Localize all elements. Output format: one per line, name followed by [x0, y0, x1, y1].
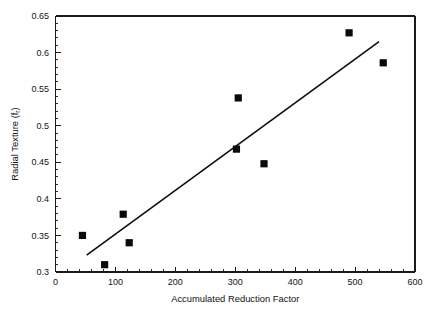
data-point-marker — [380, 59, 387, 66]
data-point-marker — [79, 232, 86, 239]
y-tick-label: 0.4 — [36, 194, 49, 204]
data-point-marker — [345, 29, 352, 36]
data-point-marker — [233, 146, 240, 153]
x-tick-label: 0 — [53, 277, 58, 287]
y-tick-label: 0.6 — [36, 48, 49, 58]
y-tick-label: 0.35 — [31, 231, 49, 241]
data-point-marker — [126, 239, 133, 246]
x-tick-label: 500 — [348, 277, 363, 287]
data-point-marker — [235, 94, 242, 101]
x-tick-label: 300 — [228, 277, 243, 287]
x-tick-label: 600 — [407, 277, 422, 287]
data-points — [79, 29, 387, 268]
x-tick-label: 200 — [168, 277, 183, 287]
y-tick-label: 0.45 — [31, 157, 49, 167]
x-axis-title: Accumulated Reduction Factor — [171, 293, 299, 304]
y-axis-title: Radial Texture (fr) — [9, 107, 21, 180]
data-point-marker — [101, 261, 108, 268]
y-axis-tick-labels: 0.30.350.40.450.50.550.60.65 — [31, 11, 49, 277]
y-axis-ticks — [56, 16, 61, 272]
data-point-marker — [120, 211, 127, 218]
y-axis-title-text: Radial Texture (fr) — [9, 107, 21, 180]
y-tick-label: 0.3 — [36, 267, 49, 277]
y-tick-label: 0.5 — [36, 121, 49, 131]
y-tick-label: 0.65 — [31, 11, 49, 21]
x-axis-ticks — [56, 267, 416, 272]
x-tick-label: 100 — [108, 277, 123, 287]
scatter-chart: 0100200300400500600 0.30.350.40.450.50.5… — [0, 0, 433, 314]
x-tick-label: 400 — [288, 277, 303, 287]
x-axis-tick-labels: 0100200300400500600 — [53, 277, 423, 287]
data-point-marker — [260, 160, 267, 167]
y-tick-label: 0.55 — [31, 84, 49, 94]
figure-container: 0100200300400500600 0.30.350.40.450.50.5… — [0, 0, 433, 314]
